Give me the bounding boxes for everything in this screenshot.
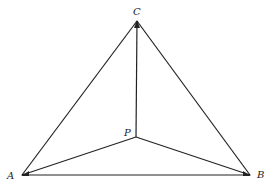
triangle-diagram: C A B P <box>0 0 269 186</box>
label-p: P <box>123 127 131 138</box>
label-c: C <box>133 6 141 17</box>
segment-pa <box>22 137 136 175</box>
diagram-svg: C A B P <box>0 0 269 186</box>
segment-ca <box>22 21 137 175</box>
label-a: A <box>6 170 14 181</box>
segment-pb <box>136 137 250 175</box>
label-b: B <box>256 169 264 180</box>
segment-bc <box>137 21 250 175</box>
segment-pc <box>136 21 137 137</box>
